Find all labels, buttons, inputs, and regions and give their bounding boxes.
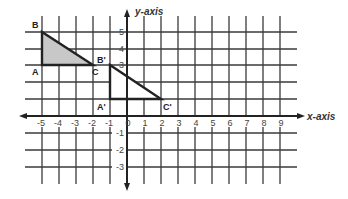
svg-text:-4: -4 [54, 118, 62, 128]
x-axis-label: x-axis [306, 111, 336, 122]
svg-text:5: 5 [119, 27, 124, 37]
x-axis-right-arrow-icon [297, 113, 305, 119]
svg-text:6: 6 [227, 118, 232, 128]
svg-text:-5: -5 [37, 118, 45, 128]
svg-text:3: 3 [176, 118, 181, 128]
svg-text:-1: -1 [116, 128, 124, 138]
svg-text:9: 9 [278, 118, 283, 128]
svg-text:4: 4 [193, 118, 198, 128]
svg-text:-2: -2 [88, 118, 96, 128]
vertex-label-c: C [92, 67, 99, 77]
vertex-label-a: A [32, 67, 39, 77]
svg-text:5: 5 [210, 118, 215, 128]
y-axis-up-arrow-icon [124, 9, 130, 17]
svg-text:2: 2 [159, 118, 164, 128]
vertex-label-b: B [32, 20, 39, 30]
svg-text:-3: -3 [71, 118, 79, 128]
y-axis-label: y-axis [134, 6, 164, 17]
vertex-label-c-prime: C' [163, 102, 172, 112]
svg-text:0: 0 [125, 118, 130, 128]
svg-text:8: 8 [261, 118, 266, 128]
svg-text:-3: -3 [116, 162, 124, 172]
coordinate-plane: y-axis x-axis -5 -4 -3 -2 -1 0 1 2 3 4 5… [0, 0, 348, 199]
x-tick-labels: -5 -4 -3 -2 -1 0 1 2 3 4 5 6 7 8 9 [37, 118, 284, 128]
svg-text:1: 1 [142, 118, 147, 128]
vertex-label-b-prime: B' [97, 55, 106, 65]
x-axis-left-arrow-icon [19, 113, 27, 119]
y-axis-down-arrow-icon [124, 183, 130, 191]
svg-text:-1: -1 [105, 118, 113, 128]
svg-text:3: 3 [119, 60, 124, 70]
svg-text:7: 7 [244, 118, 249, 128]
svg-text:4: 4 [119, 44, 124, 54]
vertex-label-a-prime: A' [97, 102, 106, 112]
svg-text:-2: -2 [116, 145, 124, 155]
